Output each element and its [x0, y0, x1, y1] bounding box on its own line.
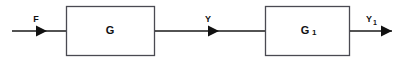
signal-label-y1-subscript: 1	[373, 19, 377, 26]
signal-label-y1: Y	[366, 14, 372, 24]
signal-label-y: Y	[205, 14, 211, 24]
arrowhead-f	[36, 26, 47, 37]
signal-label-f: F	[33, 14, 39, 24]
block-g1-label: G	[301, 24, 310, 36]
block-g-label: G	[106, 24, 115, 36]
arrowhead-y1	[381, 26, 392, 37]
arrowhead-y	[208, 26, 219, 37]
block-diagram-svg: G G 1 F Y Y 1	[0, 0, 406, 62]
block-g1-subscript: 1	[312, 28, 317, 37]
block-diagram-canvas: G G 1 F Y Y 1	[0, 0, 406, 62]
